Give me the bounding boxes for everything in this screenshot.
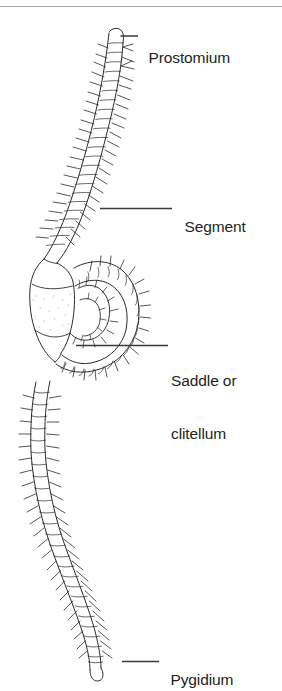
label-segment: Segment [176, 200, 246, 235]
label-pygidium-text: Pygidium [170, 671, 233, 688]
label-prostomium: Prostomium [140, 31, 230, 66]
label-prostomium-text: Prostomium [148, 49, 230, 66]
label-pygidium: Pygidium [162, 653, 233, 688]
label-saddle-line2: clitellum [171, 425, 236, 443]
leader-lines [76, 36, 172, 662]
label-saddle-or-clitellum: Saddle or clitellum [171, 337, 236, 460]
label-saddle-line1: Saddle or [171, 372, 236, 390]
earthworm-anatomy-diagram [0, 0, 282, 691]
label-segment-text: Segment [184, 218, 245, 235]
worm-body-outline [19, 28, 151, 681]
